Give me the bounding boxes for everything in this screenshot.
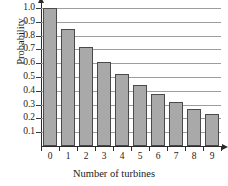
bar bbox=[169, 102, 183, 146]
bar-chart-figure: Probability 0.10.20.30.40.50.60.70.80.91… bbox=[0, 0, 228, 186]
x-tick-label: 4 bbox=[113, 152, 131, 162]
plot-area: 0.10.20.30.40.50.60.70.80.91.0 bbox=[41, 8, 221, 146]
y-tick-label: 0.2 bbox=[23, 114, 41, 124]
x-axis-line bbox=[41, 146, 223, 147]
bar bbox=[79, 47, 93, 146]
y-tick-label: 0.7 bbox=[23, 45, 41, 55]
x-tick-mark bbox=[41, 147, 42, 151]
x-tick-mark bbox=[167, 147, 168, 151]
bar bbox=[205, 114, 219, 146]
x-tick-mark bbox=[113, 147, 114, 151]
x-tick-mark bbox=[149, 147, 150, 151]
x-tick-label: 8 bbox=[185, 152, 203, 162]
x-tick-label: 1 bbox=[59, 152, 77, 162]
y-tick-label: 0.4 bbox=[23, 86, 41, 96]
x-tick-mark bbox=[185, 147, 186, 151]
bar bbox=[97, 62, 111, 146]
x-tick-mark bbox=[77, 147, 78, 151]
y-tick-label: 0.5 bbox=[23, 72, 41, 82]
gridline bbox=[41, 22, 221, 23]
x-tick-label: 7 bbox=[167, 152, 185, 162]
x-tick-label: 6 bbox=[149, 152, 167, 162]
x-tick-label: 3 bbox=[95, 152, 113, 162]
x-tick-label: 9 bbox=[203, 152, 221, 162]
x-tick-mark bbox=[203, 147, 204, 151]
bar bbox=[187, 109, 201, 146]
y-tick-label: 0.1 bbox=[23, 127, 41, 137]
y-tick-label: 0.3 bbox=[23, 100, 41, 110]
y-tick-label: 0.6 bbox=[23, 58, 41, 68]
x-tick-mark bbox=[59, 147, 60, 151]
x-axis-arrow-icon bbox=[222, 144, 228, 150]
y-tick-label: 0.8 bbox=[23, 31, 41, 41]
x-tick-mark bbox=[221, 147, 222, 151]
x-tick-label: 0 bbox=[41, 152, 59, 162]
x-axis-title: Number of turbines bbox=[0, 168, 228, 179]
gridline bbox=[41, 8, 221, 9]
x-tick-mark bbox=[95, 147, 96, 151]
bar bbox=[151, 94, 165, 146]
x-tick-label: 5 bbox=[131, 152, 149, 162]
y-tick-label: 1.0 bbox=[23, 3, 41, 13]
bar bbox=[133, 85, 147, 146]
x-tick-mark bbox=[131, 147, 132, 151]
y-tick-label: 0.9 bbox=[23, 17, 41, 27]
x-tick-label: 2 bbox=[77, 152, 95, 162]
bar bbox=[43, 8, 57, 146]
bar bbox=[115, 74, 129, 146]
bar bbox=[61, 29, 75, 146]
